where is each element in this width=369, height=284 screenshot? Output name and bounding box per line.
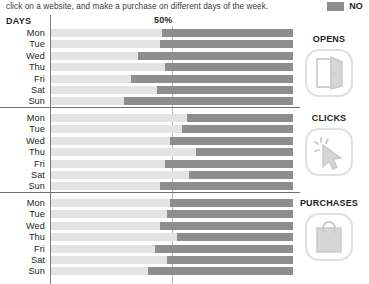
bar-fill-no bbox=[131, 75, 293, 83]
bar-track bbox=[51, 29, 293, 37]
bar-fill-no bbox=[148, 267, 293, 275]
bar-fill-no bbox=[165, 63, 293, 71]
bar-fill-no bbox=[138, 52, 293, 60]
bar-fill-no bbox=[157, 86, 293, 94]
bar-track bbox=[51, 40, 293, 48]
bar-fill-no bbox=[167, 210, 293, 218]
bar-row-label-wed: Wed bbox=[0, 51, 45, 61]
category-purchases: PURCHASES bbox=[293, 198, 365, 264]
chart-root: click on a website, and make a purchase … bbox=[0, 0, 369, 284]
bar-row-label-tue: Tue bbox=[0, 39, 45, 49]
legend: NO bbox=[327, 1, 363, 11]
bar-row-label-fri: Fri bbox=[0, 159, 45, 169]
bar-track bbox=[51, 171, 293, 179]
bar-row-label-fri: Fri bbox=[0, 74, 45, 84]
bar-row-label-thu: Thu bbox=[0, 232, 45, 242]
bar-row-label-sun: Sun bbox=[0, 266, 45, 276]
bar-track bbox=[51, 52, 293, 60]
bar-row-label-mon: Mon bbox=[0, 198, 45, 208]
bar-track bbox=[51, 63, 293, 71]
bar-row-label-wed: Wed bbox=[0, 136, 45, 146]
bar-fill-no bbox=[187, 114, 293, 122]
bar-row-label-sat: Sat bbox=[0, 255, 45, 265]
bar-row-label-mon: Mon bbox=[0, 113, 45, 123]
panel-separator bbox=[0, 192, 300, 193]
bar-fill-no bbox=[124, 97, 293, 105]
bar-track bbox=[51, 137, 293, 145]
category-opens: OPENS bbox=[293, 34, 365, 100]
bar-fill-no bbox=[160, 182, 293, 190]
bar-track bbox=[51, 267, 293, 275]
bar-fill-no bbox=[167, 256, 293, 264]
bar-fill-no bbox=[170, 199, 293, 207]
midpoint-label: 50% bbox=[154, 15, 173, 25]
bar-track bbox=[51, 114, 293, 122]
bar-track bbox=[51, 148, 293, 156]
bar-fill-no bbox=[189, 171, 293, 179]
category-label: OPENS bbox=[293, 34, 365, 44]
bar-row-label-tue: Tue bbox=[0, 209, 45, 219]
bar-track bbox=[51, 233, 293, 241]
bar-track bbox=[51, 245, 293, 253]
bar-row: Sun bbox=[0, 266, 369, 276]
bar-track bbox=[51, 256, 293, 264]
bar-fill-no bbox=[165, 160, 293, 168]
bar-fill-no bbox=[170, 137, 293, 145]
bar-track bbox=[51, 222, 293, 230]
bar-track bbox=[51, 97, 293, 105]
legend-label-no: NO bbox=[349, 1, 363, 11]
category-label: CLICKS bbox=[293, 113, 365, 123]
days-column-header: DAYS bbox=[6, 16, 31, 26]
legend-swatch-icon bbox=[327, 2, 344, 11]
bar-row: Sun bbox=[0, 181, 369, 191]
bar-row-label-sat: Sat bbox=[0, 85, 45, 95]
bar-track bbox=[51, 199, 293, 207]
chart-caption: click on a website, and make a purchase … bbox=[6, 1, 268, 12]
bar-fill-no bbox=[160, 222, 293, 230]
bar-track bbox=[51, 210, 293, 218]
bar-row-label-wed: Wed bbox=[0, 221, 45, 231]
bar-track bbox=[51, 125, 293, 133]
bar-row-label-thu: Thu bbox=[0, 147, 45, 157]
bar-track bbox=[51, 86, 293, 94]
bar-fill-no bbox=[177, 233, 293, 241]
category-clicks: CLICKS bbox=[293, 113, 365, 179]
bar-track bbox=[51, 75, 293, 83]
mouse-cursor-click-icon bbox=[302, 125, 356, 179]
bar-row-label-sun: Sun bbox=[0, 181, 45, 191]
bar-row-label-tue: Tue bbox=[0, 124, 45, 134]
shopping-bag-icon bbox=[302, 210, 356, 264]
bar-fill-no bbox=[182, 125, 293, 133]
bar-fill-no bbox=[155, 245, 293, 253]
panel-separator bbox=[0, 107, 300, 108]
open-door-icon bbox=[302, 46, 356, 100]
category-label: PURCHASES bbox=[293, 198, 365, 208]
bar-track bbox=[51, 160, 293, 168]
bar-fill-no bbox=[196, 148, 293, 156]
bar-fill-no bbox=[160, 40, 293, 48]
bar-row-label-mon: Mon bbox=[0, 28, 45, 38]
bar-row-label-fri: Fri bbox=[0, 244, 45, 254]
bar-track bbox=[51, 182, 293, 190]
bar-row-label-sun: Sun bbox=[0, 96, 45, 106]
bar-row-label-sat: Sat bbox=[0, 170, 45, 180]
bar-row-label-thu: Thu bbox=[0, 62, 45, 72]
bar-fill-no bbox=[162, 29, 293, 37]
